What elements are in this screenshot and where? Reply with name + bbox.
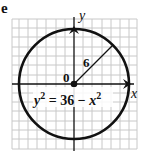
y-axis-label: y bbox=[77, 8, 86, 23]
origin-label: 0 bbox=[63, 70, 70, 85]
circle-graph-figure: e y bbox=[0, 0, 142, 162]
graph-canvas: y x 0 6 y2 = 36 − x2 bbox=[0, 0, 142, 162]
radius-label: 6 bbox=[83, 55, 90, 70]
origin-point bbox=[71, 81, 78, 88]
x-axis-label: x bbox=[130, 86, 138, 101]
